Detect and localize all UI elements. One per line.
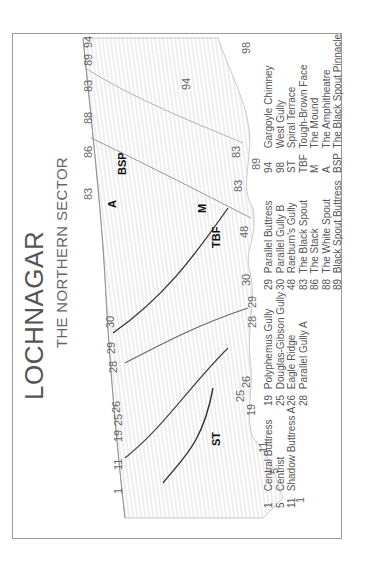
crest-label: 83 <box>83 188 94 200</box>
legend-column-3: 29 Parallel Buttress 30 Parallel Gully B… <box>263 180 344 290</box>
legend-item: 11 Shadow Buttress A <box>286 407 298 508</box>
legend-item: 19 Polyphemus Gully <box>263 292 275 406</box>
base-label: 89 <box>251 158 262 170</box>
base-label: 26 <box>241 376 252 388</box>
legend-item: 5 Centrist <box>275 407 287 508</box>
map-title: LOCHNAGAR <box>19 231 50 400</box>
crest-label: 30 <box>105 316 116 328</box>
legend-item: 89 Black Spout Buttress <box>332 180 344 290</box>
crest-label: 88 <box>83 112 94 124</box>
legend-item: 94 Gargoyle Chimney <box>263 34 275 173</box>
legend-column-4: 94 Gargoyle Chimney 98 West Gully ST Spi… <box>263 34 344 173</box>
legend-item: 88 The White Spout <box>321 180 333 290</box>
base-label: 98 <box>241 42 252 54</box>
crest-label: 19 <box>113 430 124 442</box>
legend-item: 26 Eagle Ridge <box>286 292 298 406</box>
feature-label-a: A <box>107 200 118 208</box>
legend-item: 98 West Gully <box>275 34 287 173</box>
crest-label: 94 <box>83 36 94 48</box>
legend-item: 83 The Black Spout <box>298 180 310 290</box>
base-label: 28 <box>247 316 258 328</box>
legend-item: BSP The Black Spout Pinnacle <box>332 34 344 173</box>
base-label: 30 <box>241 274 252 286</box>
base-label: 83 <box>231 146 242 158</box>
legend-item: TBF Tough-Brown Face <box>298 34 310 173</box>
crest-label: 86 <box>83 146 94 158</box>
crest-label: 11 <box>113 459 124 470</box>
crest-label: 1 <box>113 488 124 494</box>
legend-item: 25 Douglas-Gibson Gully <box>275 292 287 406</box>
crest-label: 28 <box>108 361 119 373</box>
base-label: 19 <box>246 404 257 416</box>
map-subtitle: THE NORTHERN SECTOR <box>53 157 70 348</box>
crest-label: 83 <box>83 80 94 92</box>
map-frame: LOCHNAGAR THE NORTHERN SECTOR 1 11 19 25… <box>12 33 342 539</box>
legend-item: M The Mound <box>309 34 321 173</box>
base-label: 94 <box>181 78 192 90</box>
crest-label: 26 <box>111 401 122 413</box>
legend-column-2: 19 Polyphemus Gully 25 Douglas-Gibson Gu… <box>263 292 309 406</box>
legend-item: 28 Parallel Gully A <box>298 292 310 406</box>
legend-item: 48 Raeburn's Gully <box>286 180 298 290</box>
legend-item: 30 Parallel Gully B <box>275 180 287 290</box>
base-label: 29 <box>247 296 258 308</box>
legend-item: A The Amphitheatre <box>321 34 333 173</box>
legend-item: ST Spiral Terrace <box>286 34 298 173</box>
legend-column-1: 1 Central Buttress 5 Centrist 11 Shadow … <box>263 407 298 508</box>
feature-label-st: ST <box>211 432 222 446</box>
legend-item: 1 Central Buttress <box>263 407 275 508</box>
base-label: 25 <box>235 390 246 402</box>
crest-label: 89 <box>83 54 94 66</box>
feature-label-bsp: BSP <box>117 152 128 175</box>
crest-label: 29 <box>106 342 117 354</box>
legend-item: 29 Parallel Buttress <box>263 180 275 290</box>
crest-label: 25 <box>113 414 124 426</box>
legend-item: 86 The Stack <box>309 180 321 290</box>
base-label: 83 <box>233 180 244 192</box>
base-label: 48 <box>239 226 250 238</box>
feature-label-m: M <box>197 204 208 213</box>
feature-label-tbf: TBF <box>211 227 222 248</box>
